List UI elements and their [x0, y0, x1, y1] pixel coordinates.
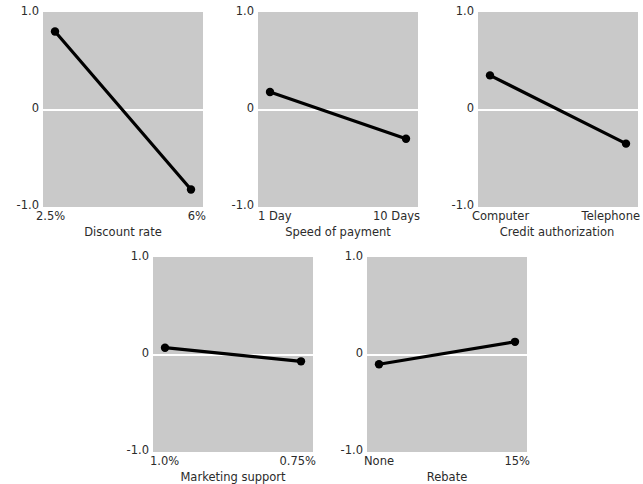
x-tick-right: 10 Days	[350, 211, 420, 223]
y-tick-bottom: -1.0	[215, 200, 254, 212]
y-tick-top: 1.0	[328, 251, 363, 263]
panel-marketing-support: 1.0 0 -1.0 1.0% 0.75% Marketing support	[110, 246, 324, 481]
axis-title: Discount rate	[23, 227, 223, 239]
y-tick-bottom: -1.0	[324, 445, 363, 457]
y-tick-top: 1.0	[4, 6, 39, 18]
plot-area	[43, 12, 203, 207]
x-tick-right: Telephone	[558, 211, 640, 223]
plot-area	[478, 12, 638, 207]
axis-title: Credit authorization	[457, 227, 643, 239]
axis-title: Marketing support	[133, 472, 333, 484]
y-tick-bottom: -1.0	[110, 445, 149, 457]
plot-area	[367, 257, 527, 452]
y-tick-zero: 0	[114, 348, 149, 360]
plot-area	[153, 257, 313, 452]
y-tick-top: 1.0	[114, 251, 149, 263]
plot-area	[258, 12, 418, 207]
panel-credit-authorization: 1.0 0 -1.0 Computer Telephone Credit aut…	[428, 0, 643, 240]
panel-rebate: 1.0 0 -1.0 None 15% Rebate	[324, 246, 538, 481]
y-tick-bottom: -1.0	[0, 200, 39, 212]
series-line	[258, 12, 418, 207]
y-tick-zero: 0	[4, 103, 39, 115]
panel-speed-of-payment: 1.0 0 -1.0 1 Day 10 Days Speed of paymen…	[214, 0, 428, 240]
series-line	[153, 257, 313, 452]
x-tick-left: None	[364, 456, 434, 468]
axis-title: Speed of payment	[238, 227, 438, 239]
y-tick-top: 1.0	[219, 6, 254, 18]
x-tick-left: Computer	[472, 211, 552, 223]
x-tick-left: 2.5%	[36, 211, 106, 223]
y-tick-top: 1.0	[439, 6, 474, 18]
x-tick-left: 1.0%	[150, 456, 220, 468]
x-tick-right: 15%	[464, 456, 530, 468]
panel-discount-rate: 1.0 0 -1.0 2.5% 6% Discount rate	[0, 0, 214, 240]
series-line	[43, 12, 203, 207]
y-tick-zero: 0	[219, 103, 254, 115]
y-tick-zero: 0	[439, 103, 474, 115]
y-tick-bottom: -1.0	[435, 200, 474, 212]
series-line	[478, 12, 638, 207]
axis-title: Rebate	[347, 472, 547, 484]
x-tick-right: 0.75%	[240, 456, 316, 468]
x-tick-right: 6%	[138, 211, 206, 223]
series-line	[367, 257, 527, 452]
y-tick-zero: 0	[328, 348, 363, 360]
x-tick-left: 1 Day	[258, 211, 328, 223]
